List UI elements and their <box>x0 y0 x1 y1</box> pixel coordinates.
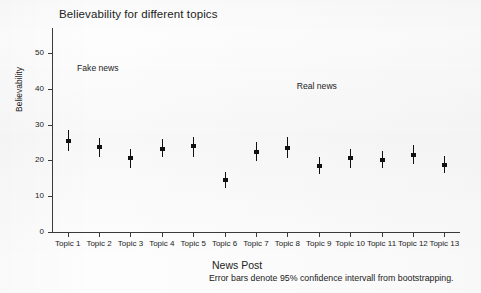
y-tick-mark <box>48 232 52 233</box>
paper-texture-overlay <box>0 0 481 293</box>
y-tick-label: 50 <box>24 48 44 57</box>
y-tick-label: 40 <box>24 84 44 93</box>
x-tick-mark <box>413 233 414 237</box>
y-tick-mark <box>48 53 52 54</box>
y-axis-line <box>52 28 53 232</box>
x-tick-mark <box>444 233 445 237</box>
mean-marker <box>66 139 71 143</box>
mean-marker <box>411 153 416 157</box>
x-tick-mark <box>350 233 351 237</box>
chart-annotation-label: Fake news <box>77 63 119 73</box>
y-tick-label: 0 <box>24 227 44 236</box>
mean-marker <box>160 147 165 151</box>
mean-marker <box>191 144 196 148</box>
y-tick-label: 10 <box>24 191 44 200</box>
mean-marker <box>442 163 447 167</box>
chart-annotation-label: Real news <box>297 81 337 91</box>
x-tick-mark <box>319 233 320 237</box>
x-tick-mark <box>130 233 131 237</box>
y-axis-label: Believability <box>14 67 24 112</box>
mean-marker <box>97 145 102 149</box>
mean-marker <box>348 156 353 160</box>
x-tick-mark <box>193 233 194 237</box>
y-tick-mark <box>48 196 52 197</box>
chart-figure: Believability for different topics Belie… <box>0 0 481 293</box>
y-tick-mark <box>48 125 52 126</box>
x-axis-label: News Post <box>212 259 262 271</box>
x-tick-mark <box>99 233 100 237</box>
x-tick-label: Topic 13 <box>424 239 464 248</box>
mean-marker <box>285 146 290 150</box>
y-tick-mark <box>48 160 52 161</box>
chart-caption: Error bars denote 95% confidence interva… <box>209 273 454 283</box>
chart-title: Believability for different topics <box>59 8 218 20</box>
y-tick-label: 30 <box>24 120 44 129</box>
x-tick-mark <box>287 233 288 237</box>
mean-marker <box>223 178 228 182</box>
mean-marker <box>380 158 385 162</box>
mean-marker <box>128 156 133 160</box>
x-tick-mark <box>162 233 163 237</box>
x-tick-mark <box>382 233 383 237</box>
mean-marker <box>317 164 322 168</box>
x-tick-mark <box>68 233 69 237</box>
mean-marker <box>254 150 259 154</box>
y-tick-label: 20 <box>24 155 44 164</box>
x-tick-mark <box>225 233 226 237</box>
y-tick-mark <box>48 89 52 90</box>
x-tick-mark <box>256 233 257 237</box>
